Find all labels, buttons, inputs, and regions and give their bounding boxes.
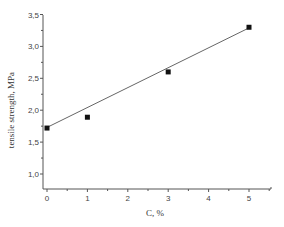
x-tick-label: 4: [206, 194, 211, 203]
y-tick-label: 2,5: [28, 74, 40, 83]
x-axis-label: C, %: [146, 208, 165, 218]
data-point-marker: [45, 126, 50, 131]
y-tick-label: 1,0: [28, 170, 40, 179]
y-tick-label: 1,5: [28, 138, 40, 147]
data-point-marker: [166, 69, 171, 74]
data-point-marker: [247, 25, 252, 30]
x-tick-label: 1: [85, 194, 90, 203]
y-axis: 1,01,52,02,53,03,5: [28, 11, 43, 190]
data-point-marker: [85, 115, 90, 120]
x-axis: 012345: [43, 187, 271, 203]
y-tick-label: 2,0: [28, 106, 40, 115]
y-tick-label: 3,5: [28, 11, 40, 20]
tensile-strength-chart: 1,01,52,02,53,03,5 012345 C, % tensile s…: [0, 0, 284, 227]
x-tick-label: 5: [247, 194, 252, 203]
fit-line: [47, 28, 249, 128]
y-tick-label: 3,0: [28, 42, 40, 51]
x-tick-label: 0: [45, 194, 50, 203]
y-axis-label: tensile strength, MPa: [6, 72, 16, 148]
x-tick-label: 3: [166, 194, 171, 203]
x-tick-label: 2: [126, 194, 131, 203]
